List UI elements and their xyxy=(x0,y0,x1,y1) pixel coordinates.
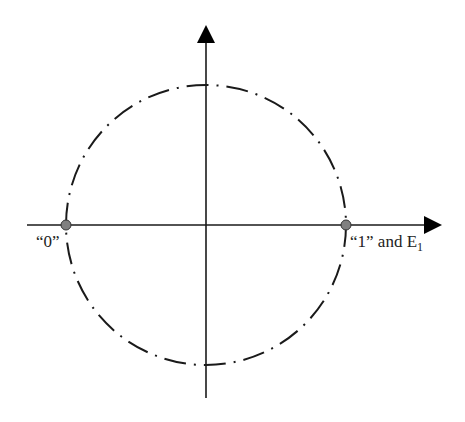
point-zero xyxy=(61,220,71,230)
label-one-text: “1” and E xyxy=(350,232,417,251)
diagram-canvas xyxy=(0,0,465,422)
label-zero: “0” xyxy=(36,232,60,252)
point-one xyxy=(341,220,351,230)
label-one-and-e1: “1” and E1 xyxy=(350,232,423,255)
label-subscript: 1 xyxy=(417,240,423,254)
y-axis-arrow-icon xyxy=(197,25,215,43)
x-axis-arrow-icon xyxy=(424,216,442,234)
